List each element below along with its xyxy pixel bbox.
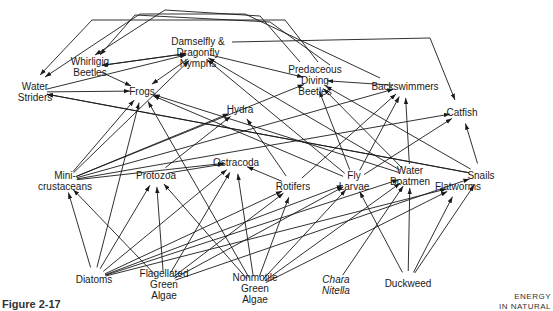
node-label-line: Flatworms — [435, 181, 481, 192]
edge-nonmotile_green_algae-to-rotifers — [259, 197, 289, 277]
edge-snails-to-catfish — [465, 123, 477, 163]
edge-water_boatmen-to-predaceous_diving_beetles — [323, 89, 401, 168]
node-label-line: Backswimmers — [371, 81, 438, 92]
running-head-line-2: IN NATURAL — [499, 302, 551, 311]
node-label-line: Chara — [322, 274, 350, 285]
node-label-line: Water — [390, 165, 430, 176]
node-label-line: Beetles — [71, 67, 109, 78]
edge-diatoms-to-frogs — [97, 103, 139, 268]
node-nonmotile-green-algae: NonmotileGreenAlgae — [232, 272, 277, 305]
node-label-line: Fly — [339, 170, 370, 181]
node-label-line: Boatmen — [390, 176, 430, 187]
edge-nonmotile_green_algae-to-protozoa — [164, 184, 247, 279]
node-mini-crustaceans: Mini-crustaceans — [38, 170, 92, 192]
node-label-line: Nitella — [322, 285, 350, 296]
node-label-line: Frogs — [129, 86, 155, 97]
node-label-line: Green — [140, 279, 189, 290]
edge-flagellated_green_algae-to-ostracoda — [170, 172, 230, 273]
edge-flagellated_green_algae-to-fly_larvae — [175, 187, 344, 279]
edge-duckweed-to-water_boatmen — [408, 188, 410, 271]
node-frogs: Frogs — [129, 86, 155, 97]
node-label-line: Mini- — [38, 170, 92, 181]
node-label-line: Ostracoda — [213, 157, 259, 168]
node-label-line: Catfish — [446, 107, 477, 118]
edge-nonmotile_green_algae-to-water_boatmen — [265, 183, 401, 281]
edge-flagellated_green_algae-to-protozoa — [157, 187, 163, 272]
node-label-line: Snails — [467, 170, 494, 181]
edge-duckweed-to-snails — [415, 185, 475, 273]
edge-chara_nitella-to-water_boatmen — [343, 186, 404, 275]
edge-nonmotile_green_algae-to-frogs — [148, 101, 249, 277]
node-duckweed: Duckweed — [385, 278, 432, 289]
node-predaceous-diving-beetles: PredaceousDivingBeetles — [288, 64, 341, 97]
figure-caption: Figure 2-17 — [2, 298, 61, 310]
edge-mini_crustaceans-to-predaceous_diving_beetles — [76, 84, 304, 176]
node-label-line: Larvae — [339, 181, 370, 192]
food-web-arrows — [0, 0, 553, 311]
node-rotifers: Rotifers — [276, 181, 310, 192]
edge-diatoms-to-water_boatmen — [105, 180, 398, 276]
node-catfish: Catfish — [446, 107, 477, 118]
node-hydra: Hydra — [227, 104, 254, 115]
node-label-line: Predaceous — [288, 64, 341, 75]
running-head-line-1: ENERGY — [499, 292, 551, 302]
node-label-line: Flagellated — [140, 268, 189, 279]
node-label-line: Protozoa — [136, 170, 176, 181]
node-backswimmers: Backswimmers — [371, 81, 438, 92]
edge-nonmotile_green_algae-to-fly_larvae — [263, 190, 346, 279]
node-label-line: Diving — [288, 75, 341, 86]
node-protozoa: Protozoa — [136, 170, 176, 181]
node-flatworms: Flatworms — [435, 181, 481, 192]
node-whirligig-beetles: WhirligigBeetles — [71, 56, 109, 78]
node-label-line: Diatoms — [76, 274, 113, 285]
food-web-figure: WaterStridersWhirligigBeetlesDamselfly &… — [0, 0, 553, 311]
node-label-line: Water — [18, 81, 52, 92]
node-label-line: Damselfly & — [171, 36, 224, 47]
node-label-line: Beetles — [288, 86, 341, 97]
node-label-line: Duckweed — [385, 278, 432, 289]
node-label-line: Algae — [232, 294, 277, 305]
edge-rotifers-to-backswimmers — [302, 94, 396, 178]
node-snails: Snails — [467, 170, 494, 181]
node-label-line: crustaceans — [38, 181, 92, 192]
edge-duckweed-to-flatworms — [413, 197, 452, 273]
edge-rotifers-to-ostracoda — [247, 167, 282, 182]
edge-water_striders-to-frogs — [47, 91, 130, 92]
node-water-boatmen: WaterBoatmen — [390, 165, 430, 187]
node-label-line: Dragonfly — [171, 47, 224, 58]
node-label-line: Algae — [140, 290, 189, 301]
node-flagellated-green-algae: FlagellatedGreenAlgae — [140, 268, 189, 301]
node-label-line: Nymphs — [171, 58, 224, 69]
node-diatoms: Diatoms — [76, 274, 113, 285]
edge-flagellated_green_algae-to-snails — [175, 179, 469, 280]
node-nymphs: Damselfly &DragonflyNymphs — [171, 36, 224, 69]
edge-nonmotile_green_algae-to-flatworms — [266, 191, 448, 282]
edge-nonmotile_green_algae-to-ostracoda — [238, 174, 253, 276]
node-label-line: Whirligig — [71, 56, 109, 67]
edge-mini_crustaceans-to-frogs — [73, 100, 134, 172]
node-water-striders: WaterStriders — [18, 81, 52, 103]
running-head: ENERGY IN NATURAL — [499, 292, 551, 311]
node-label-line: Rotifers — [276, 181, 310, 192]
node-chara-nitella: CharaNitella — [322, 274, 350, 296]
node-label-line: Striders — [18, 92, 52, 103]
node-label-line: Hydra — [227, 104, 254, 115]
node-label-line: Nonmotile — [232, 272, 277, 283]
node-fly-larvae: FlyLarvae — [339, 170, 370, 192]
edge-water_boatmen-to-backswimmers — [406, 98, 410, 164]
node-label-line: Green — [232, 283, 277, 294]
node-ostracoda: Ostracoda — [213, 157, 259, 168]
edge-rotifers-to-hydra — [247, 119, 286, 176]
